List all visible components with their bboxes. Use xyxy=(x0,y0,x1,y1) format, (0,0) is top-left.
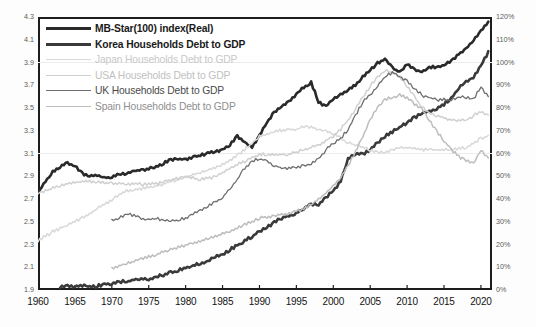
chart-legend: MB-Star(100) index(Real)Korea Households… xyxy=(46,21,306,114)
x-axis-tick-label: 2000 xyxy=(323,296,344,307)
legend-label: Japan Households Debt to GDP xyxy=(95,54,237,65)
x-axis-tick-label: 1965 xyxy=(64,296,85,307)
legend-color-swatch xyxy=(46,90,91,91)
y-axis-right-tick: 0% xyxy=(496,286,532,294)
y-axis-right-tick: 50% xyxy=(496,172,532,180)
x-axis-tick-label: 1975 xyxy=(138,296,159,307)
y-axis-left: 4.34.13.93.73.53.33.12.92.72.52.32.11.9 xyxy=(0,17,34,290)
legend-color-swatch xyxy=(46,43,91,46)
y-axis-right-tick: 90% xyxy=(496,81,532,89)
x-axis-tick-label: 1990 xyxy=(249,296,270,307)
y-axis-left-tick: 2.9 xyxy=(4,172,34,180)
y-axis-left-tick: 3.3 xyxy=(4,127,34,135)
legend-item[interactable]: USA Households Debt to GDP xyxy=(46,68,306,84)
legend-item[interactable]: MB-Star(100) index(Real) xyxy=(46,21,306,37)
legend-label: Spain Households Debt to GDP xyxy=(95,101,236,112)
legend-color-swatch xyxy=(46,59,91,60)
y-axis-right-tick: 100% xyxy=(496,59,532,67)
y-axis-right: 120%110%100%90%80%70%60%50%40%30%20%10%0… xyxy=(496,17,536,290)
x-axis-tick-label: 1970 xyxy=(101,296,122,307)
x-axis-tick-label: 1980 xyxy=(175,296,196,307)
x-axis: 1960196519701975198019851990199520002005… xyxy=(38,296,492,316)
legend-item[interactable]: UK Households Debt to GDP xyxy=(46,83,306,99)
legend-label: Korea Households Debt to GDP xyxy=(95,39,245,50)
x-axis-tick-label: 1995 xyxy=(286,296,307,307)
x-axis-tick-label: 2015 xyxy=(433,296,454,307)
legend-color-swatch xyxy=(46,27,91,30)
y-axis-right-tick: 120% xyxy=(496,13,532,21)
y-axis-right-tick: 70% xyxy=(496,127,532,135)
legend-item[interactable]: Korea Households Debt to GDP xyxy=(46,37,306,53)
y-axis-right-tick: 80% xyxy=(496,104,532,112)
y-axis-left-tick: 3.9 xyxy=(4,59,34,67)
y-axis-left-tick: 3.7 xyxy=(4,81,34,89)
legend-item[interactable]: Japan Households Debt to GDP xyxy=(46,52,306,68)
y-axis-right-tick: 40% xyxy=(496,195,532,203)
legend-label: MB-Star(100) index(Real) xyxy=(95,23,213,34)
y-axis-left-tick: 2.7 xyxy=(4,195,34,203)
y-axis-right-tick: 60% xyxy=(496,150,532,158)
y-axis-right-tick: 30% xyxy=(496,218,532,226)
y-axis-left-tick: 2.3 xyxy=(4,241,34,249)
y-axis-right-tick: 20% xyxy=(496,241,532,249)
y-axis-left-tick: 1.9 xyxy=(4,286,34,294)
x-axis-tick-label: 1985 xyxy=(212,296,233,307)
y-axis-left-tick: 2.5 xyxy=(4,218,34,226)
legend-label: USA Households Debt to GDP xyxy=(95,70,230,81)
y-axis-right-tick: 110% xyxy=(496,36,532,44)
legend-item[interactable]: Spain Households Debt to GDP xyxy=(46,99,306,115)
x-axis-tick-label: 1960 xyxy=(27,296,48,307)
y-axis-left-tick: 4.1 xyxy=(4,36,34,44)
x-axis-tick-label: 2010 xyxy=(396,296,417,307)
legend-color-swatch xyxy=(46,106,91,107)
y-axis-left-tick: 3.1 xyxy=(4,150,34,158)
y-axis-left-tick: 3.5 xyxy=(4,104,34,112)
y-axis-left-tick: 4.3 xyxy=(4,13,34,21)
legend-label: UK Households Debt to GDP xyxy=(95,85,224,96)
series-line xyxy=(112,94,488,269)
y-axis-right-tick: 10% xyxy=(496,263,532,271)
chart-screenshot: 4.34.13.93.73.53.33.12.92.72.52.32.11.9 … xyxy=(0,0,536,327)
x-axis-tick-label: 2020 xyxy=(470,296,491,307)
x-axis-tick-label: 2005 xyxy=(359,296,380,307)
y-axis-left-tick: 2.1 xyxy=(4,263,34,271)
legend-color-swatch xyxy=(46,75,91,76)
